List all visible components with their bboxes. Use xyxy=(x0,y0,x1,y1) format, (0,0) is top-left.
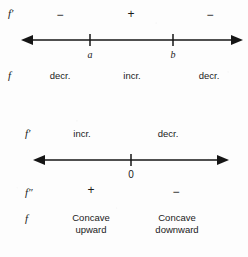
second-chart-number-line xyxy=(31,151,231,169)
first-chart-sign-1: − xyxy=(45,9,75,21)
first-chart-function-label: f xyxy=(8,70,11,81)
left-arrowhead xyxy=(33,155,45,165)
left-arrowhead xyxy=(21,35,33,45)
concavity-upward: Concave upward xyxy=(59,212,123,235)
first-chart-tick-label-b: b xyxy=(158,50,188,60)
second-chart-behavior-1: incr. xyxy=(55,128,109,139)
first-chart-number-line xyxy=(19,31,245,49)
number-line-axis xyxy=(21,35,243,45)
first-chart-tick-label-a: a xyxy=(75,50,105,60)
first-chart-behavior-1: decr. xyxy=(33,70,87,81)
second-derivative-label: f″ xyxy=(25,187,33,198)
second-chart-derivative-label: f′ xyxy=(25,128,30,139)
second-chart-function-label: f xyxy=(25,213,28,224)
first-chart-sign-2: + xyxy=(116,8,146,20)
second-chart-behavior-2: decr. xyxy=(141,128,195,139)
concavity-downward: Concave downward xyxy=(141,212,213,235)
concavity-downward-line-1: Concave xyxy=(141,212,213,224)
right-arrowhead xyxy=(217,155,229,165)
first-chart-behavior-3: decr. xyxy=(182,70,236,81)
first-chart-behavior-2: incr. xyxy=(105,70,159,81)
second-chart-sign-2: − xyxy=(161,186,191,198)
second-chart-sign-1: + xyxy=(76,184,106,196)
concavity-upward-line-2: upward xyxy=(59,224,123,236)
first-chart-derivative-label: f′ xyxy=(8,8,13,19)
derivative-sign-chart-figure: f′ − + − a b f decr. incr. decr. f′ incr… xyxy=(0,0,248,257)
first-chart-sign-3: − xyxy=(195,9,225,21)
second-chart-tick-label-zero: 0 xyxy=(116,170,146,180)
right-arrowhead xyxy=(231,35,243,45)
concavity-upward-line-1: Concave xyxy=(59,212,123,224)
concavity-downward-line-2: downward xyxy=(141,224,213,236)
